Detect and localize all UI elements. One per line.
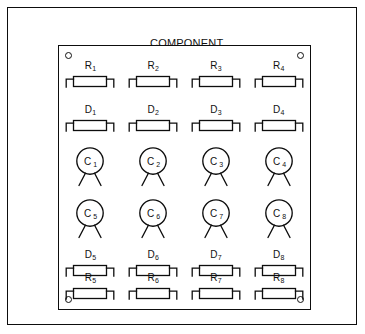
svg-text:5: 5 [94, 213, 98, 220]
component-C4[interactable]: C 4 [247, 145, 310, 195]
diode-symbol-icon [189, 117, 243, 135]
component-D2[interactable]: D2 [122, 104, 185, 144]
component-label-R1: R1 [85, 60, 96, 72]
component-D3[interactable]: D3 [185, 104, 248, 144]
svg-text:4: 4 [282, 161, 286, 168]
component-row-resistors-bottom: R5 R6 R7 R8 [59, 272, 310, 312]
component-label-R7: R7 [210, 272, 221, 284]
component-D1[interactable]: D1 [59, 104, 122, 144]
component-label-R6: R6 [148, 272, 159, 284]
capacitor-symbol-icon: C 8 [257, 197, 301, 241]
component-label-R3: R3 [210, 60, 221, 72]
component-C5[interactable]: C 5 [59, 197, 122, 247]
component-label-R5: R5 [85, 272, 96, 284]
component-label-R4: R4 [273, 60, 284, 72]
capacitor-symbol-icon: C 6 [131, 197, 175, 241]
component-label-D2: D2 [148, 104, 159, 116]
svg-text:8: 8 [282, 213, 286, 220]
component-grid: R1 R2 R3 R4 D1 D2 D3 D4 C 1 [59, 46, 310, 309]
svg-text:2: 2 [156, 161, 160, 168]
component-R5[interactable]: R5 [59, 272, 122, 312]
component-C6[interactable]: C 6 [122, 197, 185, 247]
svg-text:7: 7 [219, 213, 223, 220]
capacitor-symbol-icon: C 4 [257, 145, 301, 189]
diagram-canvas: COMPONENT SIDE R1 R2 R3 R4 D1 D2 D3 D4 [0, 0, 365, 334]
resistor-symbol-icon [63, 73, 117, 91]
capacitor-symbol-icon: C 5 [68, 197, 112, 241]
component-row-capacitors-lower: C 5 C 6 C 7 C 8 [59, 197, 310, 247]
capacitor-symbol-icon: C 3 [194, 145, 238, 189]
svg-text:C: C [84, 156, 91, 167]
component-R6[interactable]: R6 [122, 272, 185, 312]
resistor-symbol-icon [126, 73, 180, 91]
diode-symbol-icon [126, 117, 180, 135]
resistor-symbol-icon [126, 285, 180, 303]
svg-text:3: 3 [219, 161, 223, 168]
svg-text:1: 1 [94, 161, 98, 168]
component-label-D6: D6 [148, 249, 159, 261]
component-R8[interactable]: R8 [247, 272, 310, 312]
component-row-capacitors-upper: C 1 C 2 C 3 C 4 [59, 145, 310, 195]
component-row-resistors-top: R1 R2 R3 R4 [59, 60, 310, 100]
svg-text:C: C [147, 156, 154, 167]
component-R2[interactable]: R2 [122, 60, 185, 100]
component-row-diodes-top: D1 D2 D3 D4 [59, 104, 310, 144]
svg-text:C: C [273, 208, 280, 219]
component-C2[interactable]: C 2 [122, 145, 185, 195]
capacitor-symbol-icon: C 2 [131, 145, 175, 189]
component-label-D7: D7 [210, 249, 221, 261]
svg-text:C: C [210, 208, 217, 219]
component-C1[interactable]: C 1 [59, 145, 122, 195]
component-R3[interactable]: R3 [185, 60, 248, 100]
resistor-symbol-icon [252, 73, 306, 91]
component-label-D4: D4 [273, 104, 284, 116]
resistor-symbol-icon [189, 73, 243, 91]
component-D4[interactable]: D4 [247, 104, 310, 144]
svg-text:C: C [147, 208, 154, 219]
component-label-R2: R2 [148, 60, 159, 72]
capacitor-symbol-icon: C 1 [68, 145, 112, 189]
component-C7[interactable]: C 7 [185, 197, 248, 247]
component-R1[interactable]: R1 [59, 60, 122, 100]
resistor-symbol-icon [252, 285, 306, 303]
component-R4[interactable]: R4 [247, 60, 310, 100]
component-label-D3: D3 [210, 104, 221, 116]
resistor-symbol-icon [63, 285, 117, 303]
component-label-D1: D1 [85, 104, 96, 116]
component-label-D8: D8 [273, 249, 284, 261]
component-C8[interactable]: C 8 [247, 197, 310, 247]
diode-symbol-icon [252, 117, 306, 135]
component-label-D5: D5 [85, 249, 96, 261]
svg-text:C: C [210, 156, 217, 167]
component-R7[interactable]: R7 [185, 272, 248, 312]
component-C3[interactable]: C 3 [185, 145, 248, 195]
svg-text:C: C [273, 156, 280, 167]
capacitor-symbol-icon: C 7 [194, 197, 238, 241]
component-label-R8: R8 [273, 272, 284, 284]
diode-symbol-icon [63, 117, 117, 135]
svg-text:C: C [84, 208, 91, 219]
resistor-symbol-icon [189, 285, 243, 303]
pcb-board-outline: R1 R2 R3 R4 D1 D2 D3 D4 C 1 [58, 45, 311, 310]
svg-text:6: 6 [156, 213, 160, 220]
